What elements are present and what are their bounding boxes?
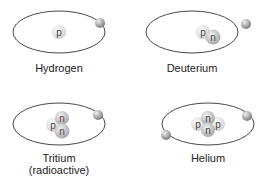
atom-label: Helium: [191, 152, 225, 164]
proton-symbol: p: [200, 27, 206, 38]
atom-deuterium: p n: [146, 11, 251, 53]
atom-sublabel: (radioactive): [19, 164, 99, 176]
atom-label: Hydrogen: [35, 62, 83, 74]
proton-symbol: p: [56, 27, 62, 38]
atom-hydrogen: p: [13, 11, 105, 53]
atom-helium: p p n n: [161, 103, 254, 145]
neutron-symbol: n: [59, 113, 65, 124]
label-helium: Helium: [168, 152, 248, 164]
label-tritium: Tritium (radioactive): [19, 152, 99, 176]
proton-symbol: p: [195, 119, 201, 130]
proton-symbol: p: [215, 119, 221, 130]
atom-label: Tritium: [19, 152, 99, 164]
label-deuterium: Deuterium: [152, 62, 232, 74]
neutron-symbol: n: [59, 126, 65, 137]
neutron-symbol: n: [205, 113, 211, 124]
electron: [242, 111, 252, 121]
atom-tritium: p n n: [13, 103, 105, 145]
neutron-symbol: n: [205, 125, 211, 136]
orbit: [146, 11, 238, 53]
electron: [241, 19, 251, 29]
electron: [161, 130, 171, 140]
atom-label: Deuterium: [167, 62, 218, 74]
neutron-symbol: n: [210, 32, 216, 43]
electron: [95, 18, 105, 28]
label-hydrogen: Hydrogen: [19, 62, 99, 74]
electron: [93, 110, 103, 120]
